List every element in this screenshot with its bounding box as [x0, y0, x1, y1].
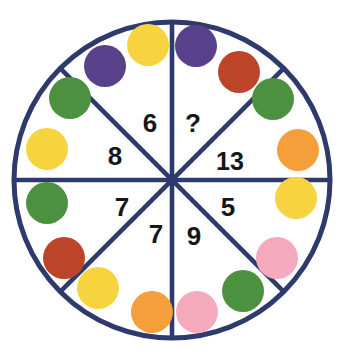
sector-label-bottom-right: 9: [187, 221, 201, 251]
dot-bottom-pink: [176, 291, 218, 333]
sector-label-top-left: 6: [143, 108, 157, 138]
dot-left-green-upper: [49, 77, 91, 119]
dot-bottom-left-yellow: [77, 267, 119, 309]
sector-label-top-right: ?: [185, 108, 201, 138]
wheel-spokes: [14, 22, 330, 338]
sector-label-right-lower: 5: [221, 192, 235, 222]
dot-top-right-purple: [175, 25, 217, 67]
dot-left-yellow: [26, 128, 68, 170]
puzzle-canvas: 6 ? 8 13 7 7 9 5: [0, 0, 346, 363]
dot-bottom-orange: [131, 291, 173, 333]
sector-label-right-upper: 13: [216, 147, 244, 175]
dot-top-left-yellow: [127, 24, 169, 66]
dot-lower-left-red: [43, 237, 85, 279]
number-wheel-diagram: 6 ? 8 13 7 7 9 5: [0, 0, 346, 363]
dot-lower-right-pink: [256, 237, 298, 279]
sector-label-left-upper: 8: [108, 141, 122, 171]
dot-upper-right-green: [252, 78, 294, 120]
dot-top-right-red: [218, 51, 260, 93]
dot-right-orange: [277, 129, 319, 171]
sector-label-bottom-left: 7: [149, 219, 163, 249]
sector-label-left-lower: 7: [115, 192, 129, 222]
dot-left-green-lower: [26, 182, 68, 224]
dot-top-left-purple: [84, 45, 126, 87]
dot-bottom-right-green: [222, 270, 264, 312]
dot-right-yellow: [275, 177, 317, 219]
